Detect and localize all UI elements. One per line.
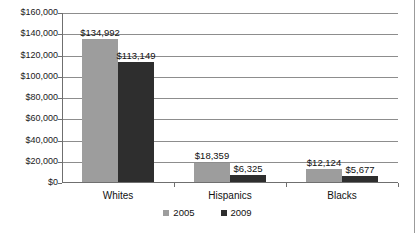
- bar-label-hispanics-2005: $18,359: [184, 151, 240, 161]
- legend-swatch-2005: [163, 210, 169, 216]
- y-axis-tick: [58, 56, 62, 57]
- plot-area: $134,992$113,149$18,359$6,325$12,124$5,6…: [62, 13, 398, 183]
- x-axis-tick: [286, 183, 287, 187]
- x-axis-line: [62, 182, 398, 183]
- legend-item-2009[interactable]: 2009: [221, 208, 252, 218]
- bar-hispanics-2009: [230, 175, 266, 182]
- y-axis-tick-label: $0: [0, 178, 58, 187]
- y-axis-tick: [58, 141, 62, 142]
- y-axis-tick-label: $100,000: [0, 72, 58, 81]
- y-axis-tick-label: $80,000: [0, 93, 58, 102]
- y-axis-tick-label: $20,000: [0, 157, 58, 166]
- y-axis-tick: [58, 183, 62, 184]
- bar-label-whites-2009: $113,149: [108, 51, 164, 61]
- bar-whites-2009: [118, 62, 154, 182]
- y-axis-tick: [58, 98, 62, 99]
- category-label-whites: Whites: [68, 190, 168, 201]
- category-label-blacks: Blacks: [292, 190, 392, 201]
- y-axis-tick-label: $140,000: [0, 29, 58, 38]
- y-axis-tick: [58, 13, 62, 14]
- y-axis-tick: [58, 34, 62, 35]
- x-axis-tick: [174, 183, 175, 187]
- y-axis-tick-label: $40,000: [0, 136, 58, 145]
- gridline: [62, 13, 398, 14]
- y-axis-tick-label: $120,000: [0, 51, 58, 60]
- bar-label-blacks-2009: $5,677: [332, 165, 388, 175]
- legend-swatch-2009: [221, 210, 227, 216]
- y-axis-tick-label: $60,000: [0, 114, 58, 123]
- chart-legend: 20052009: [0, 208, 415, 218]
- y-axis-tick: [58, 77, 62, 78]
- legend-item-2005[interactable]: 2005: [163, 208, 194, 218]
- bar-label-hispanics-2009: $6,325: [220, 164, 276, 174]
- y-axis-line: [62, 13, 63, 183]
- y-axis-tick: [58, 162, 62, 163]
- bar-label-whites-2005: $134,992: [72, 28, 128, 38]
- bar-chart: $0$20,000$40,000$60,000$80,000$100,000$1…: [0, 0, 415, 233]
- x-axis-tick: [398, 183, 399, 187]
- y-axis-tick: [58, 119, 62, 120]
- legend-label-2009: 2009: [231, 208, 252, 218]
- y-axis-tick-label: $160,000: [0, 8, 58, 17]
- legend-label-2005: 2005: [173, 208, 194, 218]
- category-label-hispanics: Hispanics: [180, 190, 280, 201]
- bar-blacks-2009: [342, 176, 378, 182]
